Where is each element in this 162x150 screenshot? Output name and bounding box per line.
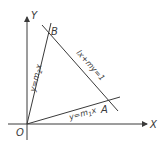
line-ab-label: lx+my=1 (75, 48, 107, 82)
line-ab (42, 25, 118, 111)
line-oa-label: y=m1x (67, 106, 98, 124)
y-axis-label: Y (31, 10, 38, 21)
point-b-label: B (51, 26, 58, 37)
triangle-diagram: Y X O B A y=m2x y=m1x lx+my=1 (0, 0, 162, 150)
origin-label: O (16, 127, 24, 138)
point-a-label: A (100, 104, 108, 115)
line-ob-label: y=m2x (28, 63, 45, 94)
x-axis-label: X (149, 119, 158, 130)
